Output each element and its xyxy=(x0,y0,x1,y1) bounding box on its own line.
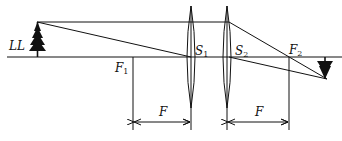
focal-length-right-label: F xyxy=(255,106,263,118)
f1-label: F1 xyxy=(115,62,128,76)
s1-sub: 1 xyxy=(203,50,208,59)
image-tree-icon xyxy=(317,57,333,79)
focal-length-left-label: F xyxy=(159,106,167,118)
s2-sub: 2 xyxy=(243,50,248,59)
f2-label: F2 xyxy=(289,44,302,58)
s1-label: S1 xyxy=(195,45,208,59)
s2-label: S2 xyxy=(235,45,248,59)
diagram-graphics xyxy=(0,0,342,141)
ray-refracted-center xyxy=(229,57,327,79)
s2-main: S xyxy=(235,44,243,58)
object-label: LL xyxy=(9,40,25,52)
object-tree-icon xyxy=(29,22,46,57)
f1-sub: 1 xyxy=(123,67,128,76)
s1-main: S xyxy=(195,44,203,58)
ray-diagram: LL F1 S1 S2 F2 F F xyxy=(0,0,342,141)
ray-through-center xyxy=(37,22,191,57)
f2-sub: 2 xyxy=(297,49,302,58)
